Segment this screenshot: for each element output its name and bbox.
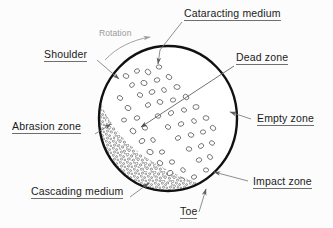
label-cascading-medium: Cascading medium <box>31 185 123 199</box>
mill-charge-diagram: Cataracting medium Shoulder Dead zone Em… <box>0 0 333 228</box>
label-rotation: Rotation <box>99 28 131 38</box>
mill-interior <box>94 44 242 195</box>
label-impact-zone: Impact zone <box>253 175 312 189</box>
label-toe: Toe <box>180 205 197 219</box>
label-dead-zone: Dead zone <box>236 51 288 65</box>
label-cataracting-medium: Cataracting medium <box>184 7 281 21</box>
label-abrasion-zone: Abrasion zone <box>12 120 81 134</box>
leader-toe <box>199 189 206 212</box>
label-shoulder: Shoulder <box>44 48 87 62</box>
leader-impact-zone <box>214 172 248 181</box>
label-empty-zone: Empty zone <box>257 112 314 126</box>
